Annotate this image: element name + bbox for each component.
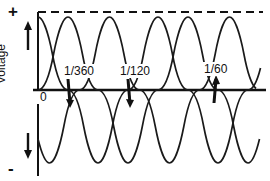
- positive-polarity-label: +: [8, 3, 18, 20]
- negative-polarity-label: -: [8, 160, 14, 177]
- negative-direction-arrow: [24, 133, 32, 159]
- time-label-1-60: 1/60: [203, 62, 228, 76]
- origin-label: 0: [40, 90, 47, 104]
- positive-direction-arrow: [24, 21, 32, 50]
- sine-wave-chart: + - 0 Voltage 1/360 1/120 1/60: [0, 0, 270, 181]
- time-label-1-360: 1/360: [63, 64, 95, 78]
- y-axis-title: Voltage: [0, 44, 8, 84]
- time-label-1-120: 1/120: [119, 64, 151, 78]
